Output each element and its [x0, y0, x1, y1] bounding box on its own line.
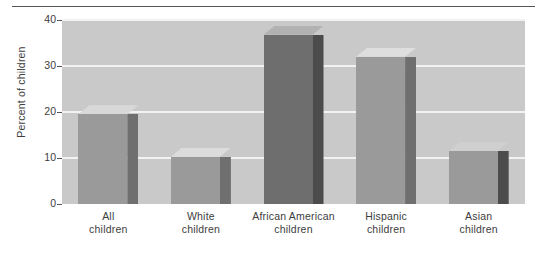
y-axis-tick-label: 20 [30, 105, 56, 117]
plot-area [62, 20, 525, 204]
bar-chart-figure: Percent of children 010203040 Allchildre… [0, 0, 543, 253]
bar [264, 35, 313, 204]
y-axis-title: Percent of children [15, 22, 27, 162]
x-axis-category-label-line: Asian [409, 210, 543, 223]
x-axis-category-label: Asianchildren [409, 210, 543, 236]
y-axis-tick-label: 0 [30, 197, 56, 209]
y-axis-tick-label: 40 [30, 13, 56, 25]
bar-front-face [356, 57, 405, 204]
bar [171, 157, 220, 204]
bar-top-face [356, 48, 416, 57]
y-axis-tick-label: 30 [30, 59, 56, 71]
gridline [62, 19, 525, 21]
bar-side-face [127, 114, 138, 204]
bar-front-face [171, 157, 220, 204]
bar-side-face [220, 157, 231, 204]
bar-front-face [264, 35, 313, 204]
bar [356, 57, 405, 204]
top-divider-rule [12, 6, 535, 7]
bar-top-face [449, 142, 509, 151]
bar-front-face [78, 114, 127, 204]
bar-side-face [313, 35, 324, 204]
bar-front-face [449, 151, 498, 204]
bar-top-face [264, 26, 324, 35]
bar [449, 151, 498, 204]
y-axis-tick-label: 10 [30, 151, 56, 163]
x-axis-category-label-line: children [409, 223, 543, 236]
bar-side-face [498, 151, 509, 204]
bar [78, 114, 127, 204]
y-axis-tick-mark [57, 204, 62, 205]
bar-top-face [171, 148, 231, 157]
bar-side-face [405, 57, 416, 204]
